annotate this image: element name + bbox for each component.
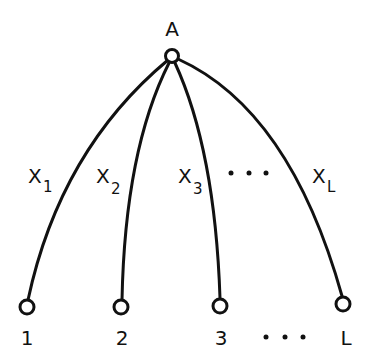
leaf-ellipsis	[264, 335, 306, 340]
svg-text:2: 2	[111, 180, 121, 198]
tree-diagram: A 1 2 3 L X 1 X 2 X 3 X L	[0, 0, 370, 362]
leaf-label-l: L	[340, 326, 352, 350]
svg-text:1: 1	[43, 178, 53, 196]
root-label: A	[165, 17, 179, 41]
edge-label-3: X 3	[178, 164, 203, 198]
leaf-label-1: 1	[21, 326, 34, 350]
leaf-node-1	[20, 300, 34, 314]
svg-text:X: X	[28, 164, 42, 188]
svg-text:L: L	[327, 178, 336, 196]
leaf-node-2	[114, 300, 128, 314]
svg-text:X: X	[96, 164, 110, 188]
leaf-label-3: 3	[215, 326, 228, 350]
edge-label-1: X 1	[28, 164, 53, 196]
leaf-node-l	[336, 297, 350, 311]
leaf-node-3	[213, 299, 227, 313]
edge-label-2: X 2	[96, 164, 121, 198]
root-node	[166, 50, 179, 63]
edge-label-l: X L	[312, 164, 336, 196]
edge-ellipsis	[229, 171, 269, 176]
svg-text:X: X	[312, 164, 326, 188]
svg-text:X: X	[178, 164, 192, 188]
leaf-label-2: 2	[116, 326, 129, 350]
svg-text:3: 3	[193, 180, 203, 198]
